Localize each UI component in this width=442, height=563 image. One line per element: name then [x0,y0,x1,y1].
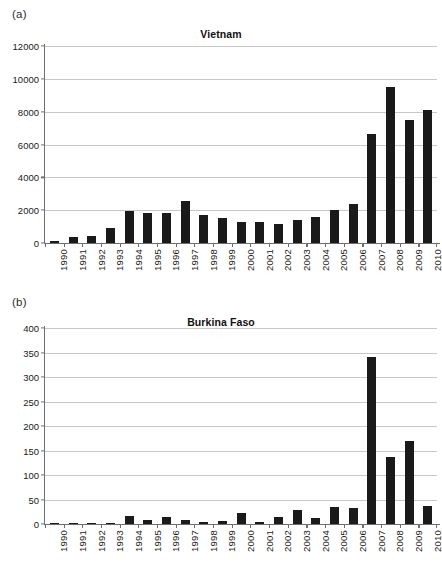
x-tick-label-2010: 2010 [432,530,442,552]
x-tick-mark [232,243,251,248]
x-tick-mark [418,243,437,248]
bar-burkina-faso-2008 [386,457,395,524]
bar-burkina-faso-1994 [125,516,134,524]
bar-vietnam-2002 [274,224,283,243]
bar-vietnam-2006 [349,204,358,243]
x-tick-mark [288,524,307,529]
x-label-cell: 1995 [138,249,157,289]
x-tick-marks-vietnam [45,243,437,248]
bar-vietnam-2001 [255,222,264,243]
x-label-cell: 2000 [232,249,251,289]
x-label-cell: 2007 [362,249,381,289]
x-tick-mark [362,524,381,529]
x-tick-mark [64,243,83,248]
x-label-cell: 2002 [269,249,288,289]
x-label-cell: 2006 [344,530,363,563]
bar-vietnam-1995 [143,213,152,243]
chart-panel-b: (b) Burkina Faso 05010015020025030035040… [0,288,442,563]
bar-slot [64,46,83,243]
x-label-cell: 1994 [120,249,139,289]
bar-slot [101,328,120,524]
x-tick-mark [232,524,251,529]
x-label-cell: 1998 [194,249,213,289]
bar-slot [157,328,176,524]
x-tick-mark [250,524,269,529]
bar-slot [250,46,269,243]
bar-slot [232,46,251,243]
bar-burkina-faso-2009 [405,441,414,524]
x-label-cell: 2003 [288,249,307,289]
bar-slot [120,328,139,524]
bar-vietnam-1999 [218,218,227,243]
bar-slot [400,46,419,243]
bar-slot [269,46,288,243]
bar-slot [418,328,437,524]
x-tick-mark [64,524,83,529]
x-label-cell: 2000 [232,530,251,563]
bar-series-vietnam [45,46,437,243]
x-tick-mark [101,524,120,529]
bar-slot [101,46,120,243]
bar-vietnam-1998 [199,215,208,243]
x-label-cell: 2005 [325,530,344,563]
bar-slot [82,46,101,243]
bar-burkina-faso-2003 [293,510,302,524]
x-label-cell: 1996 [157,530,176,563]
x-tick-mark [269,524,288,529]
x-label-cell: 2009 [400,530,419,563]
x-tick-mark [45,243,64,248]
bar-slot [120,46,139,243]
x-tick-mark [362,243,381,248]
x-tick-mark [400,243,419,248]
bar-slot [64,328,83,524]
x-tick-mark [157,524,176,529]
x-label-cell: 1998 [194,530,213,563]
bar-slot [232,328,251,524]
bar-vietnam-2000 [237,222,246,243]
x-tick-mark [250,243,269,248]
panel-label-a: (a) [12,8,27,20]
bar-slot [194,328,213,524]
y-tick-label: 2000 [18,205,39,216]
bar-slot [344,328,363,524]
x-tick-mark [344,243,363,248]
y-tick-label: 350 [23,347,39,358]
x-tick-mark [138,524,157,529]
x-label-cell: 1992 [82,530,101,563]
x-label-cell: 1999 [213,530,232,563]
x-label-cell: 2008 [381,249,400,289]
x-tick-mark [101,243,120,248]
bar-vietnam-1993 [106,228,115,243]
bar-slot [157,46,176,243]
x-label-cell: 1993 [101,530,120,563]
x-label-cell: 1991 [64,530,83,563]
bar-vietnam-1996 [162,213,171,243]
bar-slot [362,328,381,524]
bar-burkina-faso-2002 [274,517,283,524]
bar-vietnam-2003 [293,220,302,243]
x-label-cell: 1997 [176,530,195,563]
bar-slot [381,328,400,524]
x-label-cell: 2001 [250,530,269,563]
bar-vietnam-2005 [330,210,339,243]
bar-slot [250,328,269,524]
bar-vietnam-1997 [181,201,190,243]
x-tick-mark [400,524,419,529]
x-tick-mark [194,524,213,529]
y-tick-label: 100 [23,470,39,481]
bar-burkina-faso-1996 [162,517,171,524]
x-label-cell: 2004 [306,249,325,289]
x-label-cell: 2010 [418,249,437,289]
bar-vietnam-2009 [405,120,414,243]
y-tick-label: 10000 [13,73,39,84]
bar-vietnam-2004 [311,217,320,243]
bar-burkina-faso-2007 [367,357,376,524]
y-tick-label: 4000 [18,172,39,183]
x-tick-mark [381,524,400,529]
bar-vietnam-2008 [386,87,395,243]
x-tick-mark [288,243,307,248]
y-tick-label: 50 [28,494,39,505]
bar-series-burkina-faso [45,328,437,524]
y-tick-label: 8000 [18,106,39,117]
x-label-cell: 1997 [176,249,195,289]
